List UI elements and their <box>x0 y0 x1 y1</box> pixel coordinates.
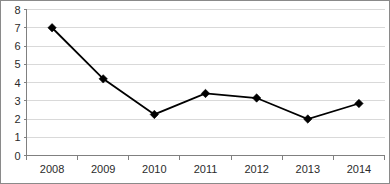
series-line-path <box>52 28 359 119</box>
x-tick-label: 2010 <box>142 163 166 175</box>
x-tick-label: 2008 <box>40 163 64 175</box>
series-markers-group <box>48 24 363 124</box>
data-point-marker <box>304 115 312 123</box>
y-tick-label: 4 <box>14 77 20 89</box>
data-point-marker <box>201 89 209 97</box>
x-tick-label: 2013 <box>296 163 320 175</box>
y-axis-tick-labels: 012345678 <box>14 4 20 162</box>
y-tick-label: 0 <box>14 150 20 162</box>
y-tick-label: 3 <box>14 95 20 107</box>
x-tick-label: 2011 <box>194 163 218 175</box>
x-tick-label: 2012 <box>244 163 268 175</box>
gridlines-group <box>27 10 385 138</box>
y-tick-label: 8 <box>14 4 20 16</box>
line-chart: 012345678 2008200920102011201220132014 <box>0 0 390 184</box>
chart-canvas: 012345678 2008200920102011201220132014 <box>1 1 390 184</box>
y-tick-label: 1 <box>14 131 20 143</box>
y-tick-label: 5 <box>14 58 20 70</box>
y-tick-label: 2 <box>14 113 20 125</box>
x-tick-label: 2009 <box>91 163 115 175</box>
y-tick-label: 6 <box>14 40 20 52</box>
y-tick-label: 7 <box>14 22 20 34</box>
x-axis-tick-labels: 2008200920102011201220132014 <box>40 163 371 175</box>
x-tick-marks-group <box>27 156 385 160</box>
x-tick-label: 2014 <box>347 163 371 175</box>
